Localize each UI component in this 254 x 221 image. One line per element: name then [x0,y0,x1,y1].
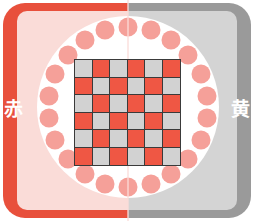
grid-cell-4-4 [145,130,162,147]
grid-cell-3-2 [110,113,127,130]
grid-cell-1-2 [110,78,127,95]
ring-dot-6 [198,109,217,128]
grid-cell-3-3 [128,113,145,130]
grid-cell-0-1 [93,60,110,77]
grid-cell-2-3 [128,95,145,112]
grid-cell-5-2 [110,148,127,165]
ring-dot-5 [198,86,217,105]
grid-cell-0-4 [145,60,162,77]
ring-dot-21 [96,21,115,40]
grid-cell-1-5 [163,78,180,95]
grid-cell-2-2 [110,95,127,112]
grid-cell-5-4 [145,148,162,165]
grid-cell-5-5 [163,148,180,165]
ring-dot-1 [141,21,160,40]
grid-cell-4-3 [128,130,145,147]
ring-dot-8 [179,150,198,169]
ring-dot-10 [141,174,160,193]
grid-cell-3-0 [75,113,92,130]
grid-cell-1-0 [75,78,92,95]
ring-dot-9 [162,165,181,184]
ring-dot-7 [191,131,210,150]
label-yellow-kanji: 黄 [231,100,250,119]
grid-cell-0-0 [75,60,92,77]
ring-dot-16 [39,109,58,128]
grid-cell-2-5 [163,95,180,112]
ring-dot-3 [179,45,198,64]
grid-cell-4-2 [110,130,127,147]
grid-cell-1-3 [128,78,145,95]
grid-cell-1-4 [145,78,162,95]
illustration-canvas: 赤 黄 [0,0,254,221]
grid-cell-2-0 [75,95,92,112]
grid-cell-4-5 [163,130,180,147]
ring-dot-2 [162,30,181,49]
grid-cell-4-1 [93,130,110,147]
label-red-kanji: 赤 [4,100,23,119]
grid-cell-4-0 [75,130,92,147]
grid-cell-2-4 [145,95,162,112]
grid-cell-0-2 [110,60,127,77]
ring-dot-13 [75,165,94,184]
ring-dot-17 [39,86,58,105]
ring-dot-20 [75,30,94,49]
grid-cell-2-1 [93,95,110,112]
grid-cell-5-0 [75,148,92,165]
grid-cell-0-3 [128,60,145,77]
grid-cell-3-5 [163,113,180,130]
grid-cell-3-4 [145,113,162,130]
grid-cell-0-5 [163,60,180,77]
grid-cell-1-1 [93,78,110,95]
grid-cell-5-1 [93,148,110,165]
grid-cell-3-1 [93,113,110,130]
ring-dot-18 [46,64,65,83]
grid-cell-5-3 [128,148,145,165]
ring-dot-4 [191,64,210,83]
ring-dot-15 [46,131,65,150]
checkerboard-grid [74,59,181,166]
ring-dot-12 [96,174,115,193]
